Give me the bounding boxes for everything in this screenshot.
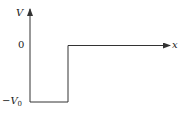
tick-bottom-label: −V0 (2, 96, 22, 108)
x-axis-label: x (172, 40, 178, 50)
tick-bottom-sub: 0 (18, 100, 22, 108)
y-axis-label: V (16, 8, 23, 18)
potential-plot (0, 0, 183, 117)
tick-zero-text: 0 (18, 39, 24, 50)
tick-zero-label: 0 (18, 40, 24, 50)
tick-bottom-prefix: −V (2, 95, 18, 106)
